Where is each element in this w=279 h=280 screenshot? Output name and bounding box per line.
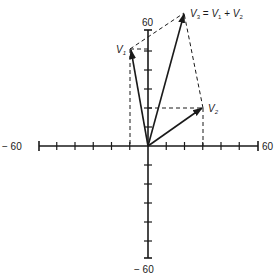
vector-v1 xyxy=(131,50,148,146)
y-axis-min-label: − 60 xyxy=(134,264,154,275)
vector-v3 xyxy=(148,14,184,146)
v1-label: V1 xyxy=(116,44,126,56)
x-axis-max-label: 60 xyxy=(262,141,274,152)
vectors xyxy=(131,14,202,146)
y-axis-max-label: 60 xyxy=(142,17,154,28)
x-axis-min-label: − 60 xyxy=(2,141,22,152)
v2-label: V2 xyxy=(208,103,219,115)
vector-diagram: − 60 60 60 − 60 V1 V2 V3 = V1 + V2 xyxy=(0,0,279,280)
v3-equation-label: V3 = V1 + V2 xyxy=(190,8,244,20)
